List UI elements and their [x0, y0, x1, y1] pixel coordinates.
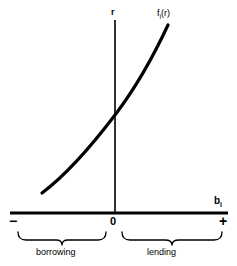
brace-lending [122, 232, 222, 245]
region-label-borrowing: borrowing [36, 248, 76, 257]
x-axis-label-subscript: i [220, 201, 222, 208]
curve-label-argument: (r) [161, 8, 170, 18]
negative-sign-label: − [9, 214, 17, 228]
curve-label: fi(r) [157, 9, 170, 20]
origin-label: 0 [110, 216, 116, 227]
positive-sign-label: + [219, 214, 227, 228]
curve-fi-r [42, 25, 168, 193]
y-axis-label: r [111, 8, 115, 17]
interest-rate-borrowing-lending-chart: r fi(r) bi − + 0 borrowing lending [0, 0, 237, 266]
region-label-lending: lending [147, 248, 176, 257]
chart-canvas [0, 0, 237, 266]
brace-borrowing [18, 232, 106, 245]
x-axis-label: bi [214, 196, 222, 208]
